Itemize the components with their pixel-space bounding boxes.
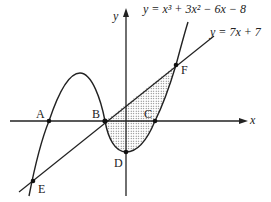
label-a: A	[36, 108, 45, 120]
line-equation: y = 7x + 7	[210, 26, 261, 38]
label-d: D	[114, 157, 123, 169]
point-a	[47, 119, 52, 124]
point-d	[124, 150, 129, 155]
point-c	[153, 119, 158, 124]
label-c: C	[144, 108, 152, 120]
shaded-region	[105, 65, 176, 152]
y-axis-arrow-icon	[123, 8, 129, 17]
point-f	[174, 63, 179, 68]
label-b: B	[92, 108, 100, 120]
curve-equation: y = x³ + 3x² − 6x − 8	[143, 3, 246, 15]
label-e: E	[38, 183, 45, 195]
x-axis-arrow-icon	[239, 118, 248, 124]
point-e	[31, 179, 36, 184]
point-b	[102, 118, 107, 123]
graph-figure: y = x³ + 3x² − 6x − 8 y = 7x + 7 y x A B…	[0, 0, 271, 202]
x-axis-label: x	[250, 114, 255, 126]
label-f: F	[181, 64, 188, 76]
cubic-curve	[29, 22, 188, 196]
y-axis-label: y	[113, 10, 118, 22]
